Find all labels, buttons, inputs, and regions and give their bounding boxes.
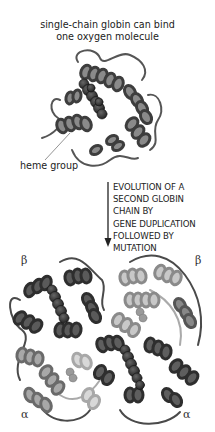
heme-group-alpha-2 xyxy=(120,345,145,390)
beta-label-right: β xyxy=(195,254,201,267)
evolution-line-1: EVOLUTION OF A xyxy=(113,181,196,193)
alpha-label-right: α xyxy=(183,408,190,421)
hemoglobin-tetramer xyxy=(10,256,201,424)
alpha-label-left: α xyxy=(21,408,28,421)
evolution-line-6: MUTATION xyxy=(113,242,196,254)
evolution-description: EVOLUTION OF A SECOND GLOBIN CHAIN BY GE… xyxy=(113,181,196,254)
evolution-line-3: CHAIN BY xyxy=(113,205,196,217)
heme-leader-line xyxy=(45,133,70,160)
single-globin-chain xyxy=(42,50,161,165)
evolution-line-5: FOLLOWED BY xyxy=(113,230,196,242)
heme-group-single xyxy=(79,79,107,119)
evolution-arrow xyxy=(105,182,112,247)
beta-label-left: β xyxy=(21,254,27,267)
evolution-line-2: SECOND GLOBIN xyxy=(113,193,196,205)
heme-group-label: heme group xyxy=(20,160,78,171)
heme-group-beta-1 xyxy=(47,285,69,323)
evolution-line-4: GENE DUPLICATION xyxy=(113,218,196,230)
